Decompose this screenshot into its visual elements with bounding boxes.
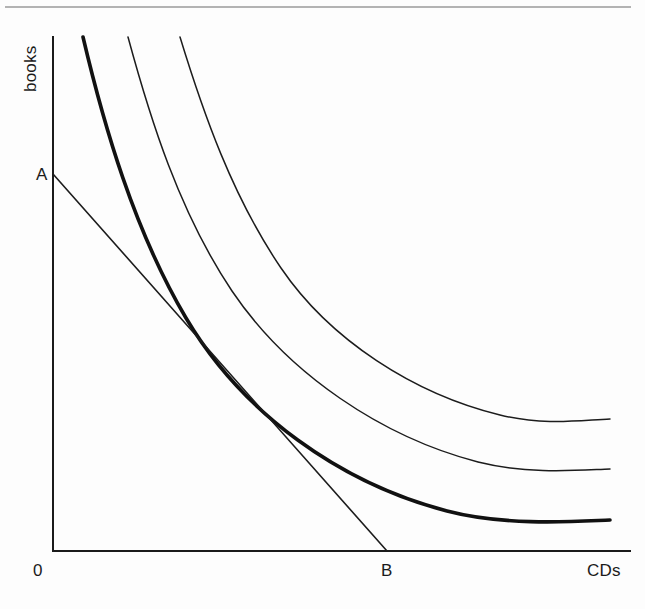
figure-container: books A 0 B CDs xyxy=(0,0,645,609)
indifference-curve-1-chosen xyxy=(83,37,610,522)
indifference-curve-3 xyxy=(180,37,610,422)
x-axis-label: CDs xyxy=(587,562,621,579)
point-b-label: B xyxy=(381,562,393,579)
origin-label: 0 xyxy=(33,562,43,579)
indifference-curve-chart xyxy=(0,0,645,609)
y-axis-label-text: books xyxy=(22,46,39,92)
point-a-label: A xyxy=(36,166,48,183)
indifference-curve-2 xyxy=(128,37,610,471)
budget-line xyxy=(53,174,387,551)
